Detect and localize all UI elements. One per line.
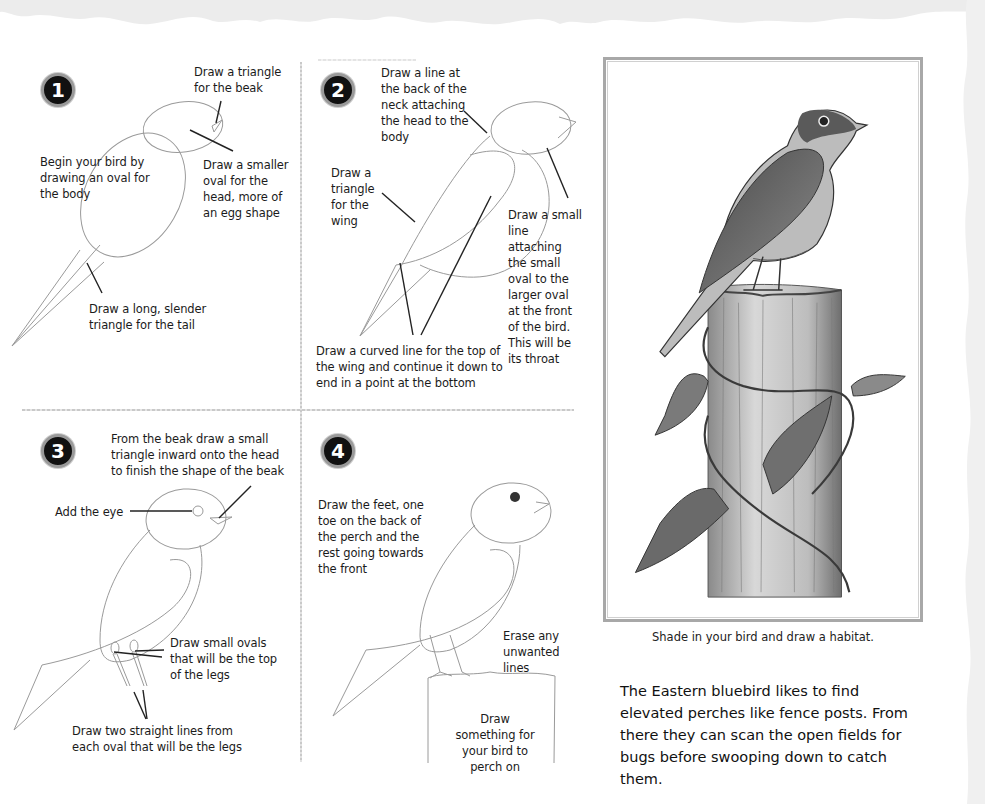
step-badge-1: 1 (41, 73, 75, 107)
divider-top-right (318, 59, 416, 61)
step-badge-2: 2 (321, 73, 355, 107)
step4-note-erase: Erase any unwanted lines (503, 628, 583, 676)
step-badge-4: 4 (321, 434, 355, 468)
step2-note-neck: Draw a line at the back of the neck atta… (381, 65, 471, 145)
tutorial-page: 1 2 3 4 Draw a triangle for the beak Beg… (0, 0, 985, 804)
step2-note-throat: Draw a small line attaching the small ov… (508, 207, 583, 367)
torn-paper-edge-top (0, 0, 985, 34)
finished-bird-illustration (603, 57, 923, 622)
divider-horizontal-right (302, 409, 574, 411)
step1-note-beak: Draw a triangle for the beak (194, 64, 294, 96)
step2-note-curve: Draw a curved line for the top of the wi… (316, 343, 506, 391)
step1-note-tail: Draw a long, slender triangle for the ta… (89, 301, 219, 333)
divider-vertical (300, 62, 302, 762)
step2-note-wing: Draw a triangle for the wing (331, 165, 381, 229)
bluebird-fact-text: The Eastern bluebird likes to find eleva… (620, 680, 920, 790)
step1-note-head: Draw a smaller oval for the head, more o… (203, 157, 293, 221)
torn-paper-edge-right (945, 0, 985, 804)
step-badge-3: 3 (41, 434, 75, 468)
step3-note-eye: Add the eye (55, 504, 135, 520)
step4-note-feet: Draw the feet, one toe on the back of th… (318, 497, 428, 577)
step3-note-ovals: Draw small ovals that will be the top of… (170, 635, 280, 683)
step3-bird-sketch (14, 486, 251, 730)
step3-note-legs: Draw two straight lines from each oval t… (72, 723, 247, 755)
step4-note-perch: Draw something for your bird to perch on (450, 711, 540, 775)
illustration-caption: Shade in your bird and draw a habitat. (603, 630, 923, 644)
divider-horizontal-left (22, 409, 300, 411)
bluebird-on-post-drawing (606, 60, 920, 619)
step3-note-beak: From the beak draw a small triangle inwa… (111, 431, 291, 479)
step1-note-body: Begin your bird by drawing an oval for t… (40, 154, 150, 202)
